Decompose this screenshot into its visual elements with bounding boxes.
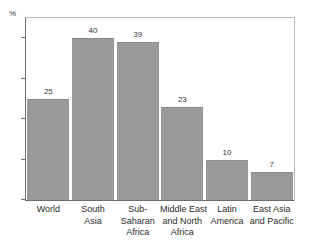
x-axis-category-label: Middle Eastand NorthAfrica bbox=[160, 204, 205, 239]
bar bbox=[117, 42, 159, 200]
x-axis-category-label-line: Asia bbox=[71, 216, 116, 228]
bar-group: 7 bbox=[251, 18, 293, 200]
x-axis-labels: WorldSouthAsiaSub-SaharanAfricaMiddle Ea… bbox=[26, 204, 294, 249]
x-axis-category-label: SouthAsia bbox=[71, 204, 116, 227]
x-axis-category-label-line: America bbox=[205, 216, 250, 228]
bar bbox=[27, 99, 69, 200]
x-axis-category-label-line: World bbox=[26, 204, 71, 216]
x-axis-category-label-line: Africa bbox=[115, 227, 160, 239]
bar-value-label: 39 bbox=[117, 30, 159, 39]
bar-group: 23 bbox=[161, 18, 203, 200]
bar-value-label: 25 bbox=[27, 87, 69, 96]
x-axis-category-label: World bbox=[26, 204, 71, 216]
x-axis-category-label: LatinAmerica bbox=[205, 204, 250, 227]
x-axis-category-label: Sub-SaharanAfrica bbox=[115, 204, 160, 239]
bar-chart: % 010203040 25403923107 WorldSouthAsiaSu… bbox=[0, 0, 311, 249]
x-axis-category-label-line: and North bbox=[160, 216, 205, 228]
bar-value-label: 10 bbox=[206, 148, 248, 157]
bar bbox=[251, 172, 293, 200]
bar-group: 39 bbox=[117, 18, 159, 200]
x-axis-category-label-line: East Asia bbox=[249, 204, 294, 216]
x-axis-category-label-line: Saharan bbox=[115, 216, 160, 228]
bar-value-label: 23 bbox=[161, 95, 203, 104]
bar-group: 40 bbox=[72, 18, 114, 200]
x-axis-category-label-line: South bbox=[71, 204, 116, 216]
x-axis-category-label-line: Africa bbox=[160, 227, 205, 239]
x-axis-category-label-line: Middle East bbox=[160, 204, 205, 216]
bars-container: 25403923107 bbox=[26, 18, 294, 200]
bar-group: 25 bbox=[27, 18, 69, 200]
x-axis-category-label-line: and Pacific bbox=[249, 216, 294, 228]
y-axis-unit-label: % bbox=[9, 9, 16, 18]
x-axis-category-label-line: Latin bbox=[205, 204, 250, 216]
bar bbox=[206, 160, 248, 200]
bar-value-label: 40 bbox=[72, 26, 114, 35]
bar bbox=[161, 107, 203, 200]
x-axis-category-label: East Asiaand Pacific bbox=[249, 204, 294, 227]
bar-value-label: 7 bbox=[251, 160, 293, 169]
bar bbox=[72, 38, 114, 200]
x-axis-category-label-line: Sub- bbox=[115, 204, 160, 216]
bar-group: 10 bbox=[206, 18, 248, 200]
